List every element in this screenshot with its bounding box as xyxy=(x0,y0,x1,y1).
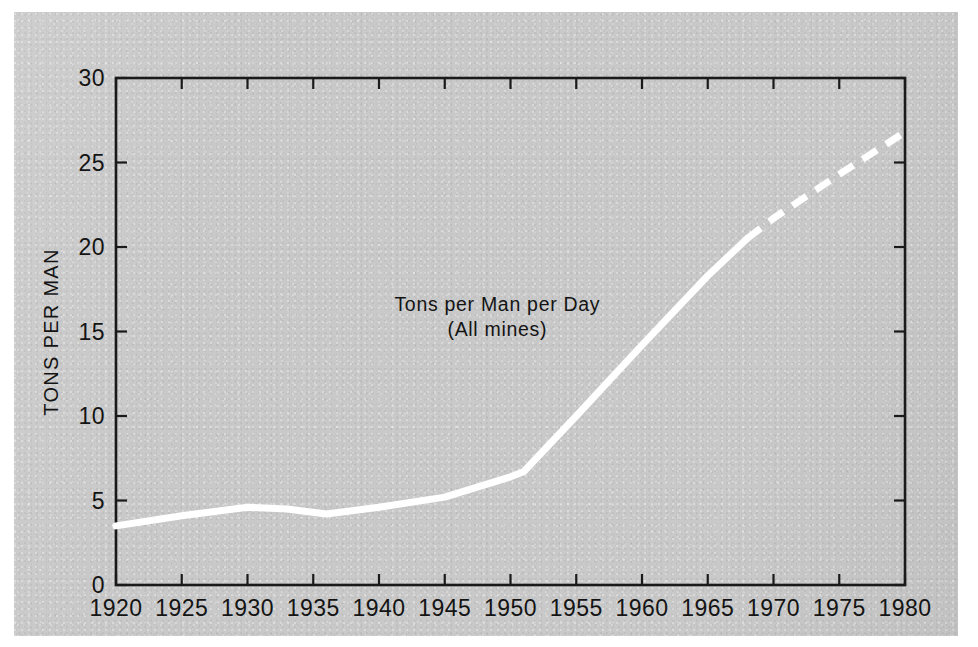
series-caption-line1: Tons per Man per Day xyxy=(394,293,600,315)
y-tick-label: 10 xyxy=(79,403,105,429)
x-tick-label: 1925 xyxy=(155,595,208,621)
series-line-projection xyxy=(747,132,905,238)
y-tick-label: 25 xyxy=(79,150,105,176)
y-tick-label: 5 xyxy=(92,488,105,514)
y-tick-label: 0 xyxy=(92,572,105,598)
y-axis-tick-labels: 051015202530 xyxy=(79,65,105,598)
x-tick-label: 1965 xyxy=(681,595,734,621)
series-line-historical xyxy=(116,239,747,526)
y-axis-title: TONS PER MAN xyxy=(40,248,62,415)
y-tick-label: 30 xyxy=(79,65,105,91)
x-tick-label: 1930 xyxy=(221,595,274,621)
x-tick-label: 1945 xyxy=(418,595,471,621)
x-axis-tick-labels: 1920192519301935194019451950195519601965… xyxy=(90,595,932,621)
x-tick-label: 1970 xyxy=(747,595,800,621)
y-tick-label: 15 xyxy=(79,319,105,345)
y-axis-title-text: TONS PER MAN xyxy=(40,248,62,415)
x-tick-label: 1955 xyxy=(550,595,603,621)
x-tick-label: 1920 xyxy=(90,595,143,621)
x-tick-label: 1980 xyxy=(879,595,932,621)
x-tick-label: 1940 xyxy=(353,595,406,621)
x-tick-label: 1935 xyxy=(287,595,340,621)
y-tick-label: 20 xyxy=(79,234,105,260)
line-chart: 1920192519301935194019451950195519601965… xyxy=(14,12,958,636)
figure-panel: 1920192519301935194019451950195519601965… xyxy=(14,12,958,636)
x-tick-label: 1975 xyxy=(813,595,866,621)
series-caption: Tons per Man per Day (All mines) xyxy=(394,293,600,340)
x-tick-label: 1950 xyxy=(484,595,537,621)
series-caption-line2: (All mines) xyxy=(447,318,547,340)
x-tick-label: 1960 xyxy=(616,595,669,621)
